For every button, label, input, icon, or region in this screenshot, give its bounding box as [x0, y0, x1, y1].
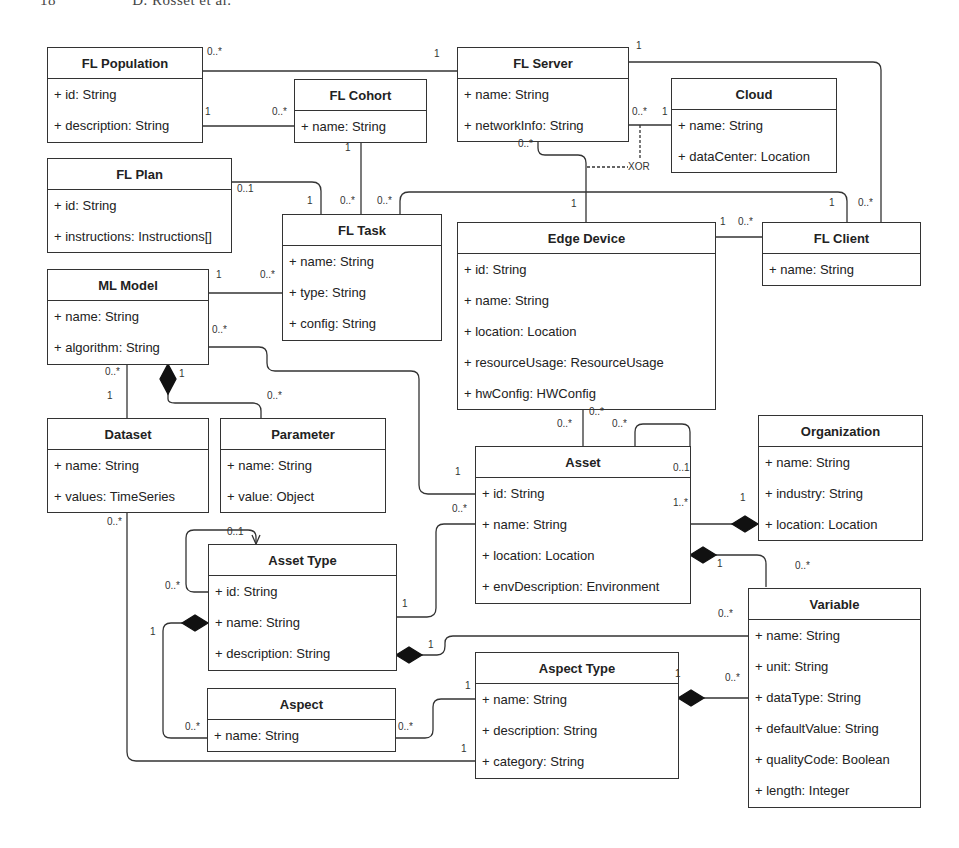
class-attribute: + hwConfig: HWConfig [458, 378, 715, 409]
multiplicity-label: 1 [402, 598, 408, 609]
class-attribute: + algorithm: String [48, 332, 208, 363]
class-attribute: + description: String [48, 110, 202, 141]
class-dataset[interactable]: Dataset + name: String + values: TimeSer… [47, 418, 209, 513]
multiplicity-label: 0..* [518, 138, 533, 149]
class-attribute: + name: String [221, 450, 385, 481]
class-ml-model[interactable]: ML Model + name: String + algorithm: Str… [47, 269, 209, 365]
multiplicity-label: 1 [307, 195, 313, 206]
class-cloud[interactable]: Cloud + name: String + dataCenter: Locat… [671, 78, 837, 173]
multiplicity-label: 1 [717, 558, 723, 569]
class-attribute: + value: Object [221, 481, 385, 512]
class-attribute: + config: String [283, 308, 441, 339]
class-fl-plan[interactable]: FL Plan + id: String + instructions: Ins… [47, 158, 232, 253]
class-attribute: + description: String [476, 715, 678, 746]
class-asset-type[interactable]: Asset Type + id: String + name: String +… [208, 544, 397, 671]
composition-diamond-aspecttype [678, 690, 704, 706]
multiplicity-label: 1 [455, 466, 461, 477]
class-title: Variable [749, 589, 920, 620]
class-attribute: + name: String [208, 720, 395, 751]
multiplicity-label: 0..* [589, 406, 604, 417]
class-attribute: + name: String [458, 285, 715, 316]
class-fl-server[interactable]: FL Server + name: String + networkInfo: … [457, 47, 629, 142]
multiplicity-label: 0..* [105, 366, 120, 377]
multiplicity-label: 0..* [212, 324, 227, 335]
class-attribute: + location: Location [759, 509, 922, 540]
multiplicity-label: 1 [461, 743, 467, 754]
class-title: Aspect [208, 689, 395, 720]
class-variable[interactable]: Variable + name: String + unit: String +… [748, 588, 921, 808]
class-attribute: + values: TimeSeries [48, 481, 208, 512]
class-edge-device[interactable]: Edge Device + id: String + name: String … [457, 222, 716, 410]
multiplicity-label: 0..* [632, 106, 647, 117]
link-model-parameter [168, 393, 261, 418]
multiplicity-label: 0..* [267, 390, 282, 401]
class-attribute: + unit: String [749, 651, 920, 682]
class-title: Aspect Type [476, 653, 678, 684]
class-attribute: + length: Integer [749, 775, 920, 806]
class-title: FL Population [48, 48, 202, 79]
multiplicity-label: 0..* [165, 580, 180, 591]
class-attribute: + qualityCode: Boolean [749, 744, 920, 775]
class-attribute: + category: String [476, 746, 678, 777]
class-attribute: + name: String [672, 110, 836, 141]
multiplicity-label: 1 [829, 197, 835, 208]
class-attribute: + envDescription: Environment [476, 571, 690, 602]
class-attribute: + name: String [458, 79, 628, 110]
link-asset-variable [716, 555, 766, 587]
class-fl-cohort[interactable]: FL Cohort + name: String [294, 79, 427, 143]
composition-diamond-asset [690, 547, 716, 563]
class-attribute: + name: String [749, 620, 920, 651]
class-attribute: + description: String [209, 638, 396, 669]
class-attribute: + name: String [759, 447, 922, 478]
class-organization[interactable]: Organization + name: String + industry: … [758, 415, 923, 541]
multiplicity-label: 0..* [185, 721, 200, 732]
class-attribute: + dataType: String [749, 682, 920, 713]
class-attribute: + resourceUsage: ResourceUsage [458, 347, 715, 378]
class-aspect-type[interactable]: Aspect Type + name: String + description… [475, 652, 679, 779]
multiplicity-label: 0..* [557, 418, 572, 429]
class-attribute: + defaultValue: String [749, 713, 920, 744]
class-attribute: + id: String [209, 576, 396, 607]
multiplicity-label: 1 [345, 142, 351, 153]
multiplicity-label: 0..* [377, 195, 392, 206]
class-title: FL Plan [48, 159, 231, 190]
class-title: Organization [759, 416, 922, 447]
multiplicity-label: 0..* [718, 608, 733, 619]
class-attribute: + location: Location [476, 540, 690, 571]
class-title: Edge Device [458, 223, 715, 254]
class-title: Dataset [48, 419, 208, 450]
class-attribute: + id: String [48, 79, 202, 110]
multiplicity-label: 0..1 [673, 462, 690, 473]
xor-label: XOR [628, 161, 650, 172]
multiplicity-label: 1 [205, 106, 211, 117]
class-title: FL Cohort [295, 80, 426, 111]
class-parameter[interactable]: Parameter + name: String + value: Object [220, 418, 386, 513]
class-attribute: + name: String [763, 254, 920, 285]
multiplicity-label: 0..* [272, 106, 287, 117]
class-fl-client[interactable]: FL Client + name: String [762, 222, 921, 286]
multiplicity-label: 0..* [340, 195, 355, 206]
class-title: Asset [476, 447, 690, 478]
multiplicity-label: 1 [434, 48, 440, 59]
multiplicity-label: 1 [179, 368, 185, 379]
multiplicity-label: 0..* [260, 269, 275, 280]
multiplicity-label: 1 [107, 390, 113, 401]
class-attribute: + instructions: Instructions[] [48, 221, 231, 252]
class-asset[interactable]: Asset + id: String + name: String + loca… [475, 446, 691, 604]
multiplicity-label: 1 [428, 639, 434, 650]
composition-diamond-assettype-variable [396, 647, 422, 663]
class-aspect[interactable]: Aspect + name: String [207, 688, 396, 752]
multiplicity-label: 1 [465, 680, 471, 691]
link-aspect-aspecttype [396, 699, 475, 738]
class-attribute: + id: String [48, 190, 231, 221]
multiplicity-label: 1..* [673, 497, 688, 508]
class-title: FL Client [763, 223, 920, 254]
class-title: FL Server [458, 48, 628, 79]
class-attribute: + networkInfo: String [458, 110, 628, 141]
class-fl-population[interactable]: FL Population + id: String + description… [47, 47, 203, 143]
multiplicity-label: 0..* [452, 503, 467, 514]
class-title: FL Task [283, 215, 441, 246]
multiplicity-label: 1 [740, 492, 746, 503]
class-fl-task[interactable]: FL Task + name: String + type: String + … [282, 214, 442, 341]
class-attribute: + industry: String [759, 478, 922, 509]
